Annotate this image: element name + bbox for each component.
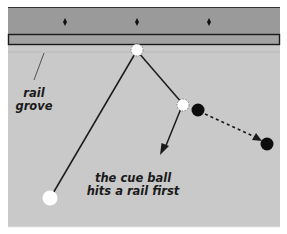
rail-groove-label-line2: grove [14, 100, 54, 113]
ghost-ball-rail [131, 44, 143, 56]
rail-groove [9, 35, 280, 45]
object-ball-target [261, 138, 274, 151]
billiards-diagram [0, 0, 287, 234]
caption-line2: hits a rail first [78, 185, 188, 198]
rail [8, 7, 280, 34]
caption: the cue ball hits a rail first [78, 172, 188, 198]
rail-groove-label: rail grove [14, 87, 54, 113]
object-ball [192, 104, 205, 117]
ghost-ball-contact [177, 99, 189, 111]
cue-ball [43, 191, 58, 206]
